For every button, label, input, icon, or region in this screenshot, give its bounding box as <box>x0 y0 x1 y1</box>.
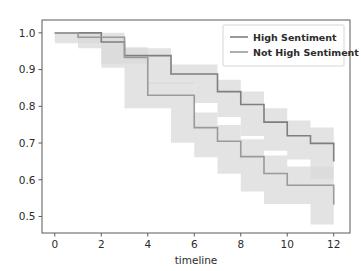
x-tick-label-3: 6 <box>191 238 198 250</box>
y-tick-label-1: 0.6 <box>19 174 36 186</box>
x-tick-label-2: 4 <box>144 238 151 250</box>
x-tick-label-1: 2 <box>98 238 105 250</box>
kaplan-meier-chart: 024681012 0.50.60.70.80.91.0 timeline Hi… <box>0 0 361 271</box>
chart-figure: 024681012 0.50.60.70.80.91.0 timeline Hi… <box>0 0 361 271</box>
legend-label-0: High Sentiment <box>253 32 337 43</box>
y-tick-label-2: 0.7 <box>19 137 36 149</box>
chart-legend: High SentimentNot High Sentiment <box>223 25 359 66</box>
x-tick-label-5: 10 <box>281 238 294 250</box>
y-tick-label-0: 0.5 <box>19 210 36 222</box>
x-axis-label: timeline <box>175 254 218 266</box>
y-tick-label-3: 0.8 <box>19 100 36 112</box>
x-tick-label-4: 8 <box>237 238 244 250</box>
x-tick-label-0: 0 <box>51 238 58 250</box>
y-tick-label-4: 0.9 <box>19 63 36 75</box>
legend-label-1: Not High Sentiment <box>253 47 359 58</box>
x-tick-label-6: 12 <box>327 238 340 250</box>
y-tick-label-5: 1.0 <box>19 27 36 39</box>
